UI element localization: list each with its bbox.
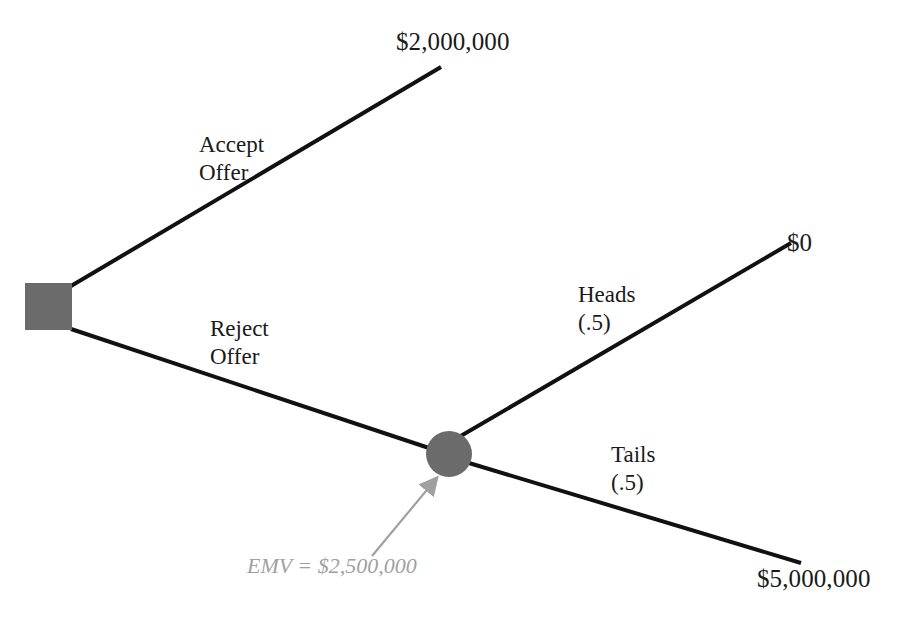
- decision-node-square: [25, 283, 72, 330]
- payoff-label-accept: $2,000,000: [396, 27, 510, 57]
- branch-label-heads-line2: (.5): [578, 309, 611, 336]
- branch-label-accept-line2: Offer: [199, 159, 248, 186]
- decision-tree-diagram: $2,000,000 $0 $5,000,000 Accept Offer Re…: [0, 0, 906, 623]
- branch-label-tails-line1: Tails: [611, 441, 655, 468]
- payoff-label-heads: $0: [787, 228, 812, 258]
- tree-graphics: [0, 0, 906, 623]
- branch-label-heads-line1: Heads: [578, 281, 635, 308]
- branch-line-accept: [71, 67, 441, 286]
- branch-label-tails-line2: (.5): [611, 469, 644, 496]
- branch-label-reject-line2: Offer: [210, 343, 259, 370]
- branch-label-accept-line1: Accept: [199, 131, 264, 158]
- emv-annotation-label: EMV = $2,500,000: [247, 553, 417, 579]
- branch-line-heads: [459, 243, 791, 437]
- emv-leader-line: [372, 479, 436, 556]
- branch-label-reject-line1: Reject: [210, 315, 269, 342]
- payoff-label-tails: $5,000,000: [757, 564, 871, 594]
- chance-node-circle: [426, 431, 472, 477]
